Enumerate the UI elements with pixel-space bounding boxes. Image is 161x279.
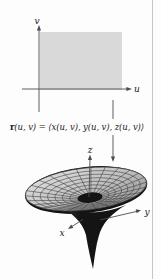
formula-expression: (u, v) = ⟨x(u, v), y(u, v), z(u, v)⟩ <box>14 122 144 132</box>
v-axis-label: v <box>34 16 39 26</box>
y-axis-arrowhead-icon <box>136 209 141 213</box>
uv-plane: v u <box>22 16 140 112</box>
parameter-domain-rect <box>40 32 122 90</box>
z-axis-label: z <box>87 145 93 155</box>
figure-svg: v u z y <box>0 0 161 279</box>
surface-plot <box>22 160 149 269</box>
x-axis-arrowhead-icon <box>68 225 73 229</box>
x-axis-label: x <box>59 228 64 238</box>
figure-page: v u z y <box>0 0 161 279</box>
z-axis-arrowhead-icon <box>88 155 92 161</box>
y-axis-label: y <box>143 207 150 217</box>
parametrization-formula: r(u, v) = ⟨x(u, v), y(u, v), z(u, v)⟩ <box>2 119 152 135</box>
u-axis-arrowhead-icon <box>126 87 132 91</box>
u-axis-label: u <box>134 84 140 94</box>
mapping-arrowhead-icon <box>111 156 115 162</box>
